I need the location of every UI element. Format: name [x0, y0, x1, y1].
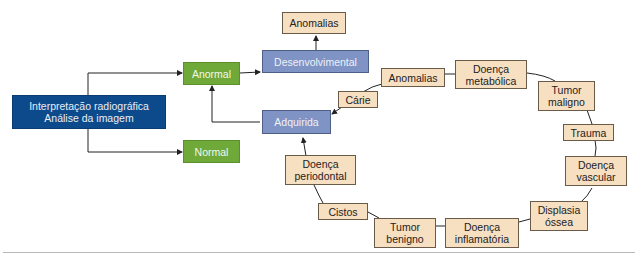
root-line-2: Análise da imagem	[44, 112, 133, 124]
developmental-node: Desenvolvimental	[262, 50, 369, 73]
benign-tumor-node: Tumor benigno	[374, 218, 436, 248]
developmental-anomalies-node: Anomalias	[282, 12, 346, 34]
cysts-node: Cistos	[318, 203, 368, 220]
metabolic-disease-node: Doença metabólica	[455, 60, 527, 89]
acquired-anomalies-node: Anomalias	[381, 68, 445, 87]
malignant-tumor-node: Tumor maligno	[538, 81, 595, 111]
acquired-node: Adquirida	[262, 110, 331, 134]
root-node-radiographic-interpretation: Interpretação radiográfica Análise da im…	[12, 95, 166, 129]
periodontal-disease-node: Doença periodontal	[285, 155, 356, 185]
caries-node: Cárie	[338, 91, 378, 108]
normal-node: Normal	[183, 140, 240, 163]
diagram-canvas: Interpretação radiográfica Análise da im…	[0, 0, 638, 261]
inflammatory-disease-node: Doença inflamatória	[445, 218, 519, 248]
root-line-1: Interpretação radiográfica	[29, 100, 149, 112]
trauma-node: Trauma	[563, 124, 614, 141]
bone-dysplasia-node: Displasia óssea	[530, 201, 588, 231]
vascular-disease-node: Doença vascular	[565, 156, 627, 186]
abnormal-node: Anormal	[183, 62, 240, 85]
bottom-divider	[3, 252, 635, 253]
